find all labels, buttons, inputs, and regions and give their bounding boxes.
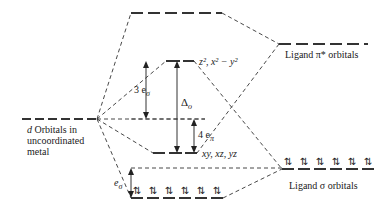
sigma-sub-2: σ	[118, 182, 122, 191]
delta-o-label: Δo	[181, 96, 192, 111]
electron-pair: ⇅	[348, 156, 356, 168]
bonding-electrons: ⇅⇅⇅⇅⇅⇅	[131, 185, 225, 197]
electron-pair: ⇅	[284, 156, 292, 168]
electron-pair: ⇅	[197, 185, 205, 197]
t2g-set-label: xy, xz, yz	[202, 148, 237, 159]
d-line1: Orbitals in	[32, 124, 77, 135]
pi-sub: π	[210, 134, 214, 143]
d-line2: uncoordinated	[27, 135, 84, 146]
o-sub: o	[188, 102, 192, 111]
ligand-pi-star-label: Ligand π* orbitals	[285, 49, 358, 60]
mo-diagram	[0, 0, 389, 209]
four-e-text: 4 e	[198, 129, 210, 140]
ligand-sigma-electrons: ⇅⇅⇅⇅⇅⇅	[282, 156, 376, 168]
four-e-pi-label: 4 eπ	[198, 129, 214, 144]
eg-set-label: z², x² − y²	[199, 56, 238, 67]
electron-pair: ⇅	[364, 156, 372, 168]
sigma-sub: σ	[146, 89, 150, 98]
electron-pair: ⇅	[316, 156, 324, 168]
electron-pair: ⇅	[181, 185, 189, 197]
three-e-text: 3 e	[134, 84, 146, 95]
electron-pair: ⇅	[149, 185, 157, 197]
ligand-sigma-label: Ligand σ orbitals	[289, 180, 358, 191]
electron-pair: ⇅	[133, 185, 141, 197]
electron-pair: ⇅	[213, 185, 221, 197]
electron-pair: ⇅	[300, 156, 308, 168]
d-line3: metal	[27, 146, 49, 157]
d-orbitals-label: d Orbitals in uncoordinated metal	[27, 124, 84, 157]
e-sigma-label: eσ	[114, 177, 122, 192]
electron-pair: ⇅	[332, 156, 340, 168]
three-e-sigma-label: 3 eσ	[134, 84, 150, 99]
electron-pair: ⇅	[165, 185, 173, 197]
